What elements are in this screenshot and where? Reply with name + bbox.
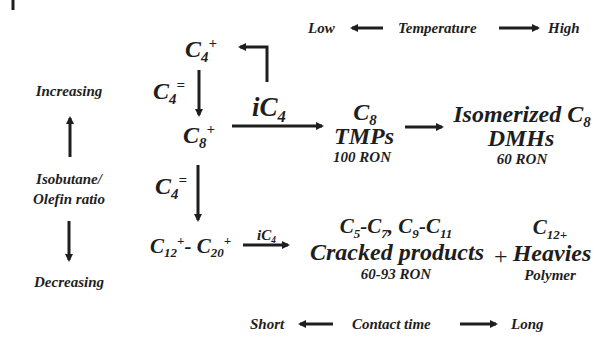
product-tmp-name: TMPs bbox=[334, 124, 394, 148]
product-dmh-ron: 60 RON bbox=[497, 152, 547, 167]
ic4-to-c4plus-arrow bbox=[240, 47, 267, 82]
temperature-axis-label: Temperature bbox=[398, 21, 477, 36]
species-ic4-main: iC4 bbox=[252, 94, 286, 126]
species-c4-olefin-1: C4= bbox=[153, 78, 185, 107]
product-heavies-formula: C12+ bbox=[533, 217, 567, 241]
product-cracked-name: Cracked products bbox=[310, 240, 484, 264]
temperature-high-label: High bbox=[548, 21, 580, 36]
contact-long-label: Long bbox=[511, 317, 544, 332]
species-ic4-small: iC4 bbox=[257, 228, 276, 246]
ratio-axis-label-line1: Isobutane/ bbox=[36, 172, 102, 187]
product-dmh-name: DMHs bbox=[488, 126, 555, 150]
ratio-increasing-label: Increasing bbox=[36, 84, 103, 99]
species-c4-plus: C4+ bbox=[185, 36, 217, 65]
product-tmp-ron: 100 RON bbox=[333, 150, 391, 165]
temperature-low-label: Low bbox=[308, 21, 335, 36]
species-c12-c20: C12+- C20+ bbox=[150, 234, 231, 259]
contact-axis-label: Contact time bbox=[352, 317, 431, 332]
product-cracked-formula: C5-C7, C9-C11 bbox=[340, 216, 452, 240]
species-c4-olefin-2: C4= bbox=[155, 173, 187, 202]
plus-sign: + bbox=[494, 244, 508, 268]
ratio-axis-label-line2: Olefin ratio bbox=[33, 192, 105, 207]
product-heavies-name: Heavies bbox=[513, 241, 592, 265]
species-c8-plus: C8+ bbox=[183, 122, 215, 151]
ratio-decreasing-label: Decreasing bbox=[34, 275, 104, 290]
product-heavies-note: Polymer bbox=[524, 268, 576, 283]
contact-short-label: Short bbox=[250, 317, 284, 332]
product-cracked-ron: 60-93 RON bbox=[361, 267, 431, 282]
